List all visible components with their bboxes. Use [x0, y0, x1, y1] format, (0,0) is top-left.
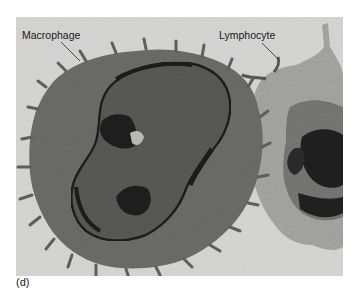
lymphocyte-label: Lymphocyte — [219, 29, 275, 41]
panel-label: (d) — [16, 276, 29, 288]
macrophage-label: Macrophage — [22, 29, 80, 41]
micrograph: Macrophage Lymphocyte — [16, 17, 343, 276]
micrograph-illustration — [16, 17, 343, 276]
